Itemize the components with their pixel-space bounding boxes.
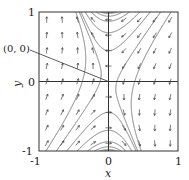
phase-portrait: 1 0 -1 -1 0 1 x y (0, 0): [0, 0, 189, 180]
y-tick-mid: 0: [28, 76, 35, 89]
field-arrow: [76, 141, 80, 145]
field-arrow: [137, 17, 141, 21]
field-arrow: [153, 48, 156, 53]
trajectory-curve: [41, 0, 101, 172]
field-arrow: [122, 48, 126, 52]
field-arrow: [169, 17, 172, 22]
x-axis-label: x: [105, 167, 112, 180]
field-arrow: [61, 17, 63, 23]
field-arrow: [169, 63, 171, 69]
field-arrow: [154, 109, 156, 115]
trajectory-curve: [80, 0, 144, 12]
field-arrow: [46, 63, 48, 69]
field-arrow: [77, 63, 79, 69]
field-arrow: [154, 125, 156, 131]
field-arrow: [61, 48, 63, 54]
x-tick-right: 1: [175, 155, 182, 168]
field-arrow: [138, 48, 141, 53]
field-arrow: [169, 48, 172, 53]
field-arrow: [169, 125, 171, 131]
field-arrow: [121, 18, 126, 21]
y-axis-label: y: [11, 80, 24, 88]
trajectory-curve: [77, 0, 151, 21]
field-arrow: [76, 125, 80, 130]
field-arrow: [76, 32, 78, 38]
field-arrow: [46, 94, 48, 100]
field-arrow: [138, 109, 140, 115]
field-arrow: [92, 63, 94, 69]
y-tick-top: 1: [28, 6, 35, 19]
field-arrow: [92, 94, 95, 99]
field-arrow: [122, 33, 127, 37]
field-arrow: [138, 33, 142, 38]
field-arrow: [154, 94, 156, 100]
field-arrow: [153, 63, 155, 69]
field-arrow: [91, 110, 95, 114]
field-arrow: [45, 125, 48, 130]
field-arrow: [91, 126, 96, 130]
field-arrow: [154, 140, 156, 146]
field-arrow: [169, 140, 171, 146]
field-arrow: [122, 63, 125, 68]
field-arrow: [139, 125, 141, 131]
field-arrow: [46, 17, 48, 23]
field-arrow: [169, 94, 171, 100]
field-arrow: [76, 110, 79, 115]
field-arrow: [61, 94, 63, 100]
field-arrow: [61, 110, 64, 115]
field-arrow: [91, 142, 96, 145]
field-arrow: [77, 48, 79, 54]
field-arrow: [61, 63, 63, 69]
field-arrow: [61, 32, 63, 38]
x-tick-left: -1: [30, 155, 41, 168]
field-arrow: [138, 94, 140, 100]
field-arrow: [169, 109, 171, 115]
field-arrow: [153, 17, 156, 22]
field-arrow: [169, 33, 172, 38]
field-arrow: [60, 141, 63, 146]
field-arrow: [46, 32, 48, 38]
field-arrow: [46, 48, 48, 54]
origin-annotation: (0, 0): [3, 43, 30, 54]
field-arrow: [123, 94, 125, 100]
field-arrow: [45, 110, 48, 115]
field-arrow: [45, 141, 48, 146]
